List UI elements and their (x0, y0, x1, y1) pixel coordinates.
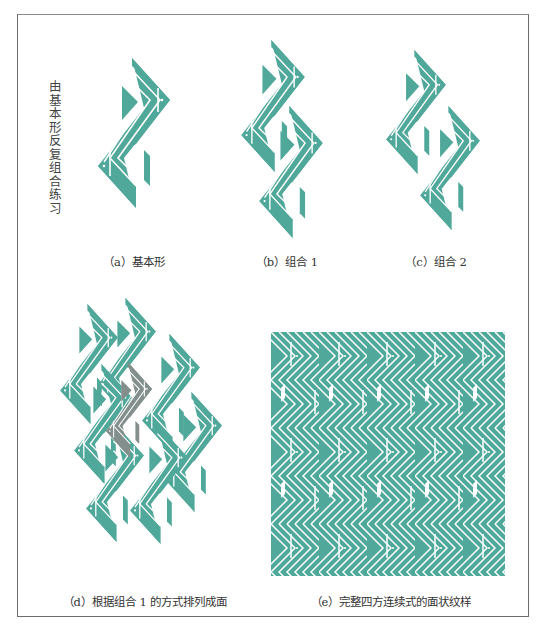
caption-d: （d）根据组合 1 的方式排列成面 (63, 593, 228, 609)
combination-2-graphic (385, 50, 495, 240)
panel-a-basic-form (98, 58, 170, 208)
basic-motif-graphic (98, 58, 170, 208)
panel-e-continuous-pattern (271, 332, 505, 576)
caption-b: （b）组合 1 (256, 253, 318, 269)
caption-c: （c）组合 2 (405, 253, 466, 269)
panel-c-combination-2 (385, 50, 495, 240)
side-title: 由基本形反复组合练习 (47, 80, 61, 215)
panel-b-combination-1 (240, 40, 340, 240)
combination-1-graphic (240, 40, 340, 240)
continuous-pattern-graphic (271, 332, 505, 576)
caption-e: （e）完整四方连续式的面状纹样 (311, 593, 472, 609)
surface-arrangement-graphic (45, 300, 225, 550)
panel-d-surface-arrangement (45, 300, 225, 550)
caption-a: （a）基本形 (103, 253, 165, 269)
